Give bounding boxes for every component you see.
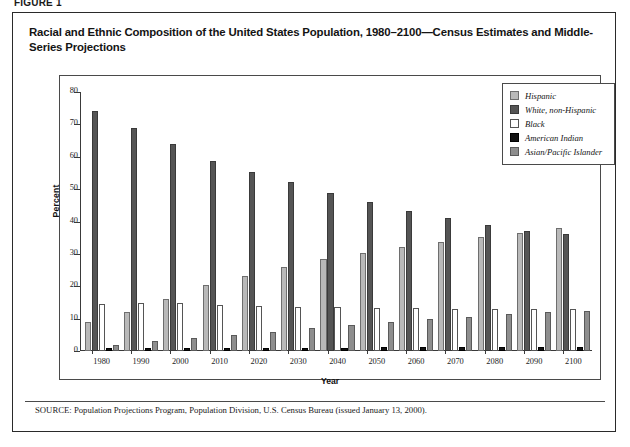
x-tick-label: 2090 <box>512 357 556 366</box>
bar[interactable] <box>459 347 465 351</box>
bar[interactable] <box>367 202 373 351</box>
legend-item[interactable]: White, non-Hispanic <box>510 103 608 116</box>
bar[interactable] <box>184 348 190 351</box>
legend-item[interactable]: American Indian <box>510 131 608 144</box>
bar[interactable] <box>92 111 98 351</box>
y-tick-label: 60 <box>48 151 78 160</box>
x-tick-label: 2020 <box>237 357 281 366</box>
bar[interactable] <box>524 231 530 351</box>
bar[interactable] <box>485 225 491 351</box>
bar[interactable] <box>334 307 340 351</box>
bar[interactable] <box>85 322 91 351</box>
bar[interactable] <box>152 341 158 351</box>
x-tick-label: 2060 <box>394 357 438 366</box>
source-note: SOURCE: Population Projections Program, … <box>35 405 427 415</box>
bar[interactable] <box>381 347 387 351</box>
bar[interactable] <box>302 348 308 351</box>
legend-label: Hispanic <box>525 91 556 101</box>
x-tick-label: 2000 <box>158 357 202 366</box>
bar[interactable] <box>131 128 137 351</box>
bar[interactable] <box>106 348 112 351</box>
bar[interactable] <box>145 348 151 351</box>
bar[interactable] <box>406 211 412 352</box>
x-tick-label: 2100 <box>551 357 595 366</box>
bar[interactable] <box>177 303 183 351</box>
bar[interactable] <box>570 309 576 351</box>
y-tick-mark <box>74 351 80 352</box>
bar[interactable] <box>506 314 512 351</box>
bar[interactable] <box>492 309 498 351</box>
bar[interactable] <box>242 276 248 351</box>
x-tick-label: 2040 <box>316 357 360 366</box>
bar[interactable] <box>531 309 537 351</box>
y-tick-label: 10 <box>48 313 78 322</box>
bar[interactable] <box>170 144 176 351</box>
bar[interactable] <box>478 237 484 351</box>
bar[interactable] <box>341 348 347 351</box>
bar[interactable] <box>224 348 230 351</box>
bar[interactable] <box>203 285 209 351</box>
legend-item[interactable]: Black <box>510 117 608 130</box>
bar[interactable] <box>231 335 237 351</box>
bar[interactable] <box>445 218 451 351</box>
y-tick-mark <box>74 222 80 223</box>
bar-group <box>281 92 315 351</box>
y-tick-mark <box>74 189 80 190</box>
bar[interactable] <box>420 347 426 351</box>
bar[interactable] <box>288 182 294 351</box>
legend-label: Black <box>525 119 545 129</box>
bar[interactable] <box>256 306 262 351</box>
bar[interactable] <box>563 234 569 351</box>
bar[interactable] <box>270 332 276 351</box>
y-tick-label: 80 <box>48 86 78 95</box>
x-tick-label: 1990 <box>119 357 163 366</box>
bar[interactable] <box>113 345 119 351</box>
bar[interactable] <box>538 347 544 351</box>
y-tick-mark <box>74 92 80 93</box>
bar[interactable] <box>124 312 130 351</box>
bar[interactable] <box>584 311 590 351</box>
bar[interactable] <box>545 312 551 351</box>
figure-box: Racial and Ethnic Composition of the Uni… <box>12 12 616 432</box>
bar-group <box>399 92 433 351</box>
bar[interactable] <box>309 328 315 351</box>
bar[interactable] <box>499 347 505 351</box>
bar[interactable] <box>427 319 433 351</box>
bar[interactable] <box>249 172 255 351</box>
bar[interactable] <box>295 307 301 351</box>
bar[interactable] <box>210 161 216 351</box>
bar-group <box>438 92 472 351</box>
bar[interactable] <box>577 347 583 351</box>
y-tick: 0 <box>60 351 88 352</box>
y-tick-label: 0 <box>48 345 78 354</box>
bar[interactable] <box>556 228 562 351</box>
bar[interactable] <box>99 304 105 351</box>
bar[interactable] <box>348 325 354 351</box>
bar[interactable] <box>163 299 169 351</box>
y-tick-label: 50 <box>48 183 78 192</box>
bar[interactable] <box>320 259 326 351</box>
chart-title: Racial and Ethnic Composition of the Uni… <box>29 25 601 55</box>
bar[interactable] <box>191 338 197 351</box>
bar[interactable] <box>138 303 144 351</box>
bar[interactable] <box>281 267 287 351</box>
legend-item[interactable]: Asian/Pacific Islander <box>510 145 608 158</box>
legend-label: White, non-Hispanic <box>525 105 596 115</box>
legend-swatch-icon <box>510 105 519 114</box>
y-tick-mark <box>74 124 80 125</box>
bar[interactable] <box>374 308 380 351</box>
legend-label: Asian/Pacific Islander <box>525 147 602 157</box>
bar[interactable] <box>360 253 366 351</box>
bar[interactable] <box>413 308 419 351</box>
bar[interactable] <box>399 247 405 351</box>
bar[interactable] <box>466 317 472 351</box>
bar[interactable] <box>517 233 523 351</box>
bar[interactable] <box>438 242 444 351</box>
bar[interactable] <box>388 322 394 351</box>
bar[interactable] <box>452 309 458 351</box>
bar-group <box>360 92 394 351</box>
legend-item[interactable]: Hispanic <box>510 89 608 102</box>
bar[interactable] <box>217 305 223 351</box>
bar[interactable] <box>327 193 333 351</box>
bar[interactable] <box>263 348 269 351</box>
